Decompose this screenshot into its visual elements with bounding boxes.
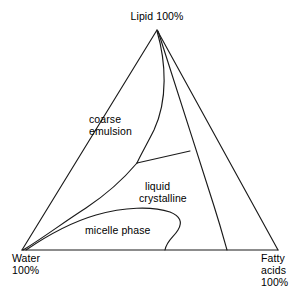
vertex-label-fatty-acids-line1: Fatty (261, 252, 301, 265)
vertex-label-water-line2: 100% (12, 264, 82, 277)
vertex-label-fatty-acids-line2: acids (261, 264, 301, 277)
region-label-coarse-emulsion-line1: coarse (89, 113, 159, 126)
vertex-label-lipid: Lipid 100% (107, 10, 207, 23)
region-label-liquid-crystalline-line1: liquid (145, 180, 225, 193)
liquid-crystalline-right-boundary (158, 31, 227, 250)
ternary-phase-diagram: Lipid 100% Water 100% Fatty acids 100% c… (0, 0, 301, 299)
vertex-label-water-line1: Water (12, 252, 82, 265)
tie-line (137, 151, 190, 163)
vertex-label-fatty-acids-line3: 100% (261, 276, 301, 289)
coarse-emulsion-boundary (137, 31, 164, 163)
region-label-liquid-crystalline-line2: crystalline (139, 192, 229, 205)
micelle-upper-boundary (23, 163, 137, 250)
region-label-micelle-phase: micelle phase (85, 224, 185, 237)
region-label-coarse-emulsion-line2: emulsion (89, 125, 159, 138)
